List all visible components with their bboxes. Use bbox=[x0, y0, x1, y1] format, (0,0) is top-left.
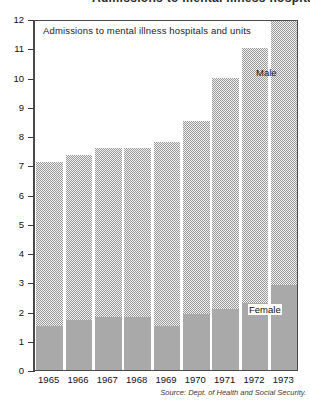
y-tick-label-8: 8 bbox=[2, 131, 24, 142]
bar-segment-female-1965 bbox=[36, 326, 62, 370]
y-tick-label-7: 7 bbox=[2, 160, 24, 171]
y-tick-label-12: 12 bbox=[2, 14, 24, 25]
y-tick-label-0: 0 bbox=[2, 365, 24, 376]
y-tick-mark-1 bbox=[28, 342, 34, 343]
bar-1967 bbox=[95, 148, 121, 370]
x-tick-label-1970: 1970 bbox=[180, 374, 210, 385]
x-tick-label-1967: 1967 bbox=[92, 374, 122, 385]
bar-segment-male-1967 bbox=[95, 148, 121, 318]
y-tick-label-6: 6 bbox=[2, 190, 24, 201]
y-tick-mark-5 bbox=[28, 225, 34, 226]
bar-segment-female-1970 bbox=[183, 314, 209, 370]
y-tick-mark-3 bbox=[28, 283, 34, 284]
y-tick-mark-8 bbox=[28, 137, 34, 138]
y-tick-mark-6 bbox=[28, 196, 34, 197]
bar-1971 bbox=[212, 78, 238, 371]
chart-figure: Admissions to mental illness hospitals a… bbox=[0, 0, 310, 401]
series-label-female: Female bbox=[248, 304, 282, 315]
source-note: Source: Dept. of Health and Social Secur… bbox=[160, 388, 306, 397]
bar-1968 bbox=[124, 148, 150, 370]
bar-segment-male-1971 bbox=[212, 78, 238, 309]
y-tick-label-9: 9 bbox=[2, 102, 24, 113]
bar-segment-female-1967 bbox=[95, 317, 121, 370]
bar-segment-female-1969 bbox=[154, 326, 180, 370]
bar-1966 bbox=[66, 155, 92, 370]
bar-segment-male-1965 bbox=[36, 162, 62, 326]
bar-segment-male-1969 bbox=[154, 142, 180, 326]
bar-segment-female-1971 bbox=[212, 309, 238, 370]
bar-segment-female-1966 bbox=[66, 320, 92, 370]
y-tick-mark-9 bbox=[28, 108, 34, 109]
bar-1972 bbox=[242, 48, 268, 370]
y-tick-mark-11 bbox=[28, 49, 34, 50]
bar-segment-male-1968 bbox=[124, 148, 150, 318]
x-tick-label-1969: 1969 bbox=[151, 374, 181, 385]
x-tick-label-1971: 1971 bbox=[210, 374, 240, 385]
x-tick-label-1972: 1972 bbox=[239, 374, 269, 385]
bar-segment-male-1973 bbox=[271, 20, 297, 285]
bar-segment-female-1973 bbox=[271, 285, 297, 370]
series-label-male: Male bbox=[256, 67, 277, 78]
bar-segment-male-1970 bbox=[183, 121, 209, 314]
y-tick-label-10: 10 bbox=[2, 73, 24, 84]
bar-segment-male-1966 bbox=[66, 155, 92, 320]
y-tick-label-4: 4 bbox=[2, 248, 24, 259]
y-tick-label-3: 3 bbox=[2, 277, 24, 288]
y-tick-label-11: 11 bbox=[2, 43, 24, 54]
x-tick-label-1968: 1968 bbox=[122, 374, 152, 385]
y-tick-mark-7 bbox=[28, 166, 34, 167]
chart-title: Admissions to mental illness hospitals a… bbox=[43, 25, 251, 36]
x-tick-label-1966: 1966 bbox=[63, 374, 93, 385]
x-tick-label-1973: 1973 bbox=[268, 374, 298, 385]
y-tick-mark-4 bbox=[28, 254, 34, 255]
bar-segment-male-1972 bbox=[242, 48, 268, 302]
y-tick-label-2: 2 bbox=[2, 307, 24, 318]
y-tick-mark-2 bbox=[28, 313, 34, 314]
bar-segment-female-1968 bbox=[124, 317, 150, 370]
bar-1969 bbox=[154, 142, 180, 370]
y-tick-mark-12 bbox=[28, 20, 34, 21]
y-tick-mark-10 bbox=[28, 79, 34, 80]
y-tick-label-1: 1 bbox=[2, 336, 24, 347]
bar-1965 bbox=[36, 162, 62, 370]
y-tick-mark-0 bbox=[28, 371, 34, 372]
y-tick-label-5: 5 bbox=[2, 219, 24, 230]
x-tick-label-1965: 1965 bbox=[34, 374, 64, 385]
bar-1970 bbox=[183, 121, 209, 370]
